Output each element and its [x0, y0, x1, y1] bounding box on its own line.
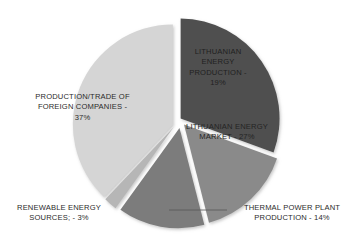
slice-label-foreign: PRODUCTION/TRADE OF FOREIGN COMPANIES - …	[10, 92, 155, 123]
slice-label-thermal: THERMAL POWER PLANT PRODUCTION - 14%	[228, 203, 356, 224]
slice-label-renewable: RENEWABLE ENERGY SOURCES; - 3%	[2, 203, 116, 224]
slice-label-lt-market: LITHUANIAN ENERGY MARKET - 27%	[172, 122, 282, 143]
pie-chart: PRODUCTION/TRADE OF FOREIGN COMPANIES - …	[0, 0, 358, 244]
slice-label-lt-production: LITHUANIAN ENERGY PRODUCTION - 19%	[178, 47, 258, 89]
